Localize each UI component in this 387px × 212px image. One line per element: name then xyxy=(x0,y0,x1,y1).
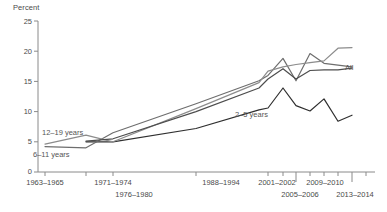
x-axis-tick-2013-2014: 2013–2014 xyxy=(336,190,374,199)
series-line-6-11-years xyxy=(45,54,352,148)
series-label-12-19-years: 12–19 years xyxy=(42,128,83,137)
series-line-2-5-years xyxy=(86,88,352,142)
series-label-6-11-years: 6–11 years xyxy=(33,150,70,159)
x-axis-tick-1976-1980: 1976–1980 xyxy=(115,190,153,199)
x-axis-tick-2001-2002: 2001–2002 xyxy=(258,178,296,187)
series-line-all xyxy=(86,68,352,141)
x-axis-tick-2009-2010: 2009–2010 xyxy=(306,178,344,187)
x-axis-tick-1971-1974: 1971–1974 xyxy=(94,178,132,187)
x-axis-tick-2005-2006: 2005–2006 xyxy=(281,190,319,199)
x-axis-tick-1988-1994: 1988–1994 xyxy=(202,178,240,187)
chart-container: Percent 25 20 15 10 5 0 xyxy=(0,0,387,212)
series-label-2-5-years: 2–5 years xyxy=(235,110,268,119)
series-lines-group xyxy=(45,48,352,148)
series-label-all: All xyxy=(345,63,353,72)
x-axis-tick-1963-1965: 1963–1965 xyxy=(26,178,64,187)
